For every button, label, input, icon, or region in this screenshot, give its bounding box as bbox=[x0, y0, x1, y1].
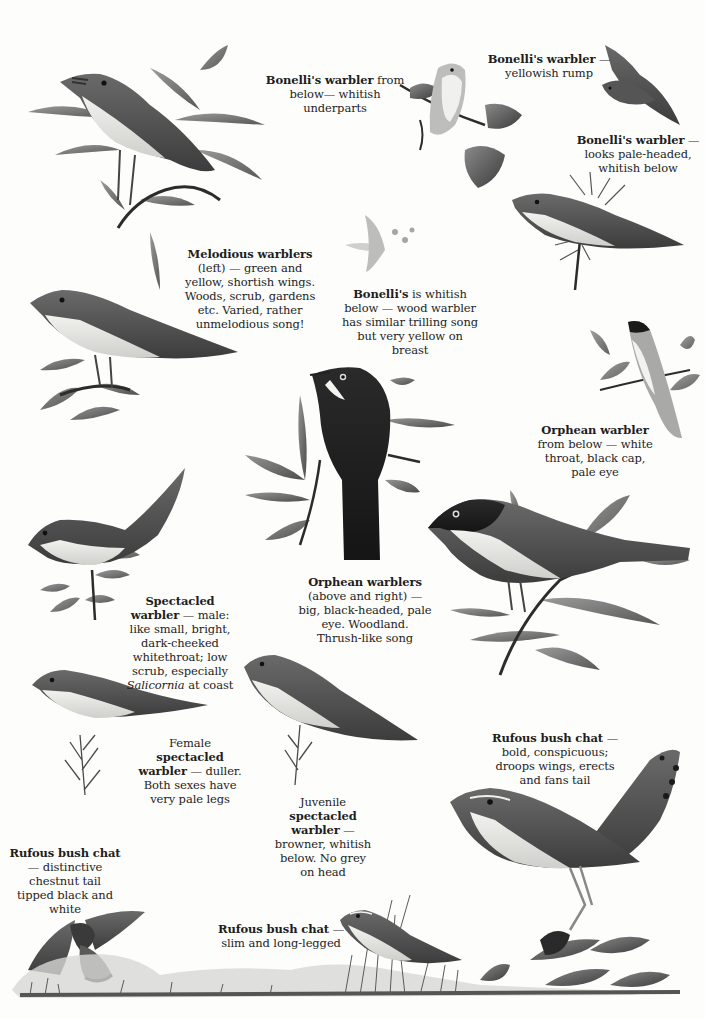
caption-bonelli-below: Bonelli's warbler from below— whitish un… bbox=[262, 73, 408, 115]
caption-orphean-below: Orphean warbler from below — white throa… bbox=[522, 423, 668, 479]
orphean-warbler-side-illustration bbox=[428, 490, 690, 675]
caption-spectacled-female: Female spectacled warbler — duller. Both… bbox=[130, 736, 250, 806]
bonelli-warbler-perched-illustration bbox=[512, 172, 684, 290]
bonelli-warbler-small-illustration bbox=[345, 215, 415, 272]
caption-rufous-tail: Rufous bush chat — distinctive chestnut … bbox=[2, 846, 128, 916]
caption-spectacled-male: Spectacled warbler — male: like small, b… bbox=[102, 594, 258, 692]
caption-rufous-bold: Rufous bush chat — bold, conspicuous; dr… bbox=[482, 731, 628, 787]
caption-melodious-warblers: Melodious warblers (left) — green and ye… bbox=[172, 247, 328, 331]
orphean-warbler-below-illustration bbox=[590, 321, 700, 438]
caption-orphean-warblers: Orphean warblers (above and right) — big… bbox=[292, 575, 438, 645]
caption-bonelli-whitish: Bonelli's is whitish below — wood warble… bbox=[340, 287, 480, 357]
orphean-warbler-back-illustration bbox=[245, 367, 455, 560]
caption-spectacled-juvenile: Juvenile spectacled warbler — browner, w… bbox=[264, 795, 382, 879]
caption-bonelli-pale: Bonelli's warbler — looks pale-headed, w… bbox=[575, 133, 701, 175]
rufous-bush-chat-grass-illustration bbox=[340, 910, 462, 963]
spectacled-warbler-juvenile-illustration bbox=[244, 655, 418, 785]
caption-bonelli-rump: Bonelli's warbler — yellowish rump bbox=[478, 52, 620, 80]
caption-rufous-slim: Rufous bush chat — slim and long-legged bbox=[214, 922, 348, 950]
bonelli-warbler-below-illustration bbox=[400, 63, 522, 188]
